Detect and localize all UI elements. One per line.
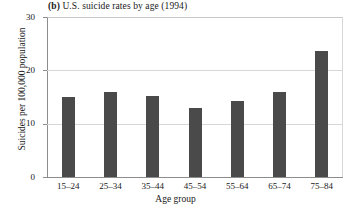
- x-tick-label: 75–84: [301, 181, 343, 191]
- x-tick-label: 35–44: [132, 181, 174, 191]
- y-axis-label: Suicides per 100,000 population: [17, 9, 27, 169]
- bar: [273, 92, 286, 177]
- y-tick-label: 0: [0, 173, 35, 182]
- x-tick-label: 65–74: [259, 181, 301, 191]
- bar: [189, 108, 202, 177]
- x-tick-label: 45–54: [174, 181, 216, 191]
- bar-series: [47, 17, 343, 177]
- bar: [315, 51, 328, 177]
- bar: [62, 97, 75, 177]
- y-tick-mark: [43, 177, 47, 178]
- bar: [146, 96, 159, 177]
- x-axis-line: [47, 177, 343, 178]
- x-axis-label: Age group: [0, 194, 351, 204]
- panel-label: (b): [48, 1, 60, 11]
- x-tick-label: 15–24: [47, 181, 89, 191]
- figure-panel: (b) U.S. suicide rates by age (1994) Sui…: [0, 0, 351, 212]
- x-tick-label: 55–64: [216, 181, 258, 191]
- bar: [231, 101, 244, 177]
- y-tick-label: 30: [0, 13, 35, 22]
- bar: [104, 92, 117, 177]
- figure-title: (b) U.S. suicide rates by age (1994): [48, 0, 187, 12]
- x-tick-label: 25–34: [89, 181, 131, 191]
- figure-title-text: U.S. suicide rates by age (1994): [62, 1, 187, 11]
- y-tick-label: 10: [0, 119, 35, 128]
- y-tick-label: 20: [0, 66, 35, 75]
